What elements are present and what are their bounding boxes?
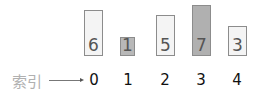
bar-value: 3 (232, 35, 243, 55)
index-3: 3 (191, 71, 211, 89)
bar-3: 7 (192, 5, 211, 56)
index-0: 0 (84, 71, 104, 89)
bar-value: 6 (88, 35, 99, 55)
bar-4: 3 (228, 26, 247, 56)
bar-value: 7 (196, 35, 207, 55)
index-2: 2 (155, 71, 175, 89)
index-4: 4 (227, 71, 247, 89)
bar-2: 5 (156, 15, 175, 56)
bar-0: 6 (84, 10, 103, 56)
index-label: 索引 (12, 70, 42, 91)
index-1: 1 (118, 71, 138, 89)
bar-value: 5 (160, 35, 171, 55)
bar-1: 1 (120, 37, 135, 56)
bar-value: 1 (122, 35, 133, 55)
arrow-line (49, 80, 82, 81)
